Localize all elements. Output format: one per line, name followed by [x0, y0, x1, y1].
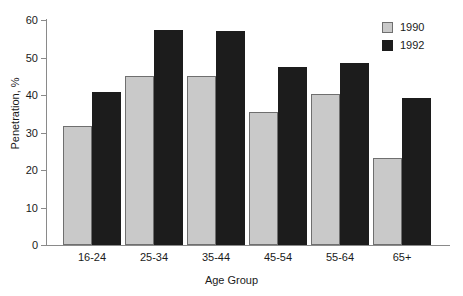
bar-1990-45-54: [249, 112, 278, 245]
y-axis-tick: [41, 208, 46, 209]
bar-group: [311, 20, 369, 245]
bar-1992-35-44: [216, 31, 245, 245]
bar-1992-65+: [402, 98, 431, 245]
legend-label: 1990: [400, 22, 424, 33]
bar-1990-16-24: [63, 126, 92, 245]
bar-1990-35-44: [187, 76, 216, 245]
y-axis-tick: [41, 245, 46, 246]
legend-swatch-icon: [382, 40, 393, 51]
legend-item-1992: 1992: [382, 36, 424, 54]
chart-legend: 19901992: [382, 18, 424, 54]
bar-group: [187, 20, 245, 245]
legend-label: 1992: [400, 40, 424, 51]
y-axis-tick-label: 10: [8, 203, 38, 214]
y-axis-tick: [41, 95, 46, 96]
y-axis-tick: [41, 170, 46, 171]
bar-1990-65+: [373, 158, 402, 245]
legend-swatch-icon: [382, 22, 393, 33]
y-axis-title: Penetration, %: [10, 54, 21, 174]
bar-group: [63, 20, 121, 245]
bar-1990-25-34: [125, 76, 154, 245]
bar-1992-16-24: [92, 92, 121, 245]
bar-group: [125, 20, 183, 245]
y-axis-tick-label: 60: [8, 15, 38, 26]
bar-1992-25-34: [154, 30, 183, 245]
x-axis-title: Age Group: [0, 275, 463, 286]
bar-1992-55-64: [340, 63, 369, 245]
bar-group: [249, 20, 307, 245]
x-axis-label-65+: 65+: [362, 252, 442, 263]
y-axis-tick: [41, 133, 46, 134]
legend-item-1990: 1990: [382, 18, 424, 36]
y-axis-tick-label: 0: [8, 240, 38, 251]
y-axis-tick: [41, 20, 46, 21]
bar-chart: 0102030405060 Penetration, % Age Group 1…: [0, 0, 463, 296]
x-axis-line: [46, 245, 450, 246]
bar-1990-55-64: [311, 94, 340, 245]
y-axis-tick: [41, 58, 46, 59]
bar-1992-45-54: [278, 67, 307, 245]
